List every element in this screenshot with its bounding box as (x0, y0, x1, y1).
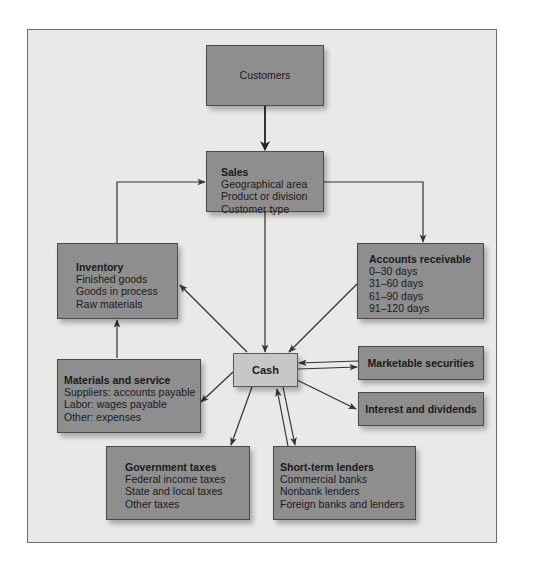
inventory-box: Inventory Finished goods Goods in proces… (57, 243, 178, 319)
taxes-item: State and local taxes (125, 485, 249, 497)
lenders-item: Commercial banks (280, 473, 415, 485)
government-taxes-title: Government taxes (125, 461, 249, 473)
materials-item: Other: expenses (64, 411, 200, 423)
cash-box: Cash (233, 353, 298, 387)
cash-label: Cash (252, 364, 279, 376)
customers-box: Customers (206, 45, 324, 106)
inventory-item: Raw materials (76, 298, 177, 310)
materials-item: Suppliers: accounts payable (64, 386, 200, 398)
marketable-securities-box: Marketable securities (358, 346, 484, 380)
lenders-item: Foreign banks and lenders (280, 498, 415, 510)
lenders-item: Nonbank lenders (280, 485, 415, 497)
inventory-title: Inventory (76, 261, 177, 273)
ar-item: 0–30 days (369, 265, 483, 277)
materials-item: Labor: wages payable (64, 398, 200, 410)
ar-item: 31–60 days (369, 277, 483, 289)
ar-item: 61–90 days (369, 290, 483, 302)
government-taxes-box: Government taxes Federal income taxes St… (106, 446, 250, 520)
sales-title: Sales (221, 166, 323, 178)
interest-dividends-label: Interest and dividends (365, 403, 476, 415)
accounts-receivable-title: Accounts receivable (369, 253, 483, 265)
inventory-item: Goods in process (76, 285, 177, 297)
taxes-item: Federal income taxes (125, 473, 249, 485)
customers-label: Customers (240, 69, 291, 81)
materials-service-box: Materials and service Suppliers: account… (57, 359, 201, 433)
short-term-lenders-box: Short-term lenders Commercial banks Nonb… (273, 446, 416, 520)
sales-item: Product or division (221, 190, 323, 202)
short-term-lenders-title: Short-term lenders (280, 461, 415, 473)
ar-item: 91–120 days (369, 302, 483, 314)
materials-service-title: Materials and service (64, 374, 200, 386)
interest-dividends-box: Interest and dividends (358, 392, 484, 426)
sales-item: Geographical area (221, 178, 323, 190)
sales-item: Customer type (221, 203, 323, 215)
inventory-item: Finished goods (76, 273, 177, 285)
sales-box: Sales Geographical area Product or divis… (206, 151, 324, 212)
taxes-item: Other taxes (125, 498, 249, 510)
accounts-receivable-box: Accounts receivable 0–30 days 31–60 days… (357, 243, 484, 319)
marketable-securities-label: Marketable securities (368, 357, 475, 369)
